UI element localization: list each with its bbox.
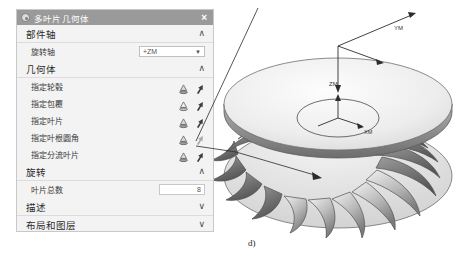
xm-axis-label: XM [364,129,373,135]
row-label: 指定轮毂 [31,81,171,92]
blade-count-input[interactable]: 8 [159,184,205,195]
row-icons [171,81,205,92]
row-specify-shroud: 指定包覆 [17,95,213,112]
close-icon[interactable]: × [199,13,209,23]
rotation-axis-label: 旋转轴 [31,46,139,57]
rotation-axis-select[interactable]: +ZM ▼ [139,46,205,57]
row-icons [171,115,205,126]
chevron-up-icon: ∧ [198,64,205,73]
arrow-cursor-icon[interactable] [194,115,205,126]
dialog-titlebar[interactable]: 多叶片几何体 × [17,10,213,25]
dialog-body: 部件轴 ∧ 旋转轴 +ZM ▼ 几何体 ∧ 指定轮毂 [17,25,213,231]
row-specify-hub: 指定轮毂 [17,78,213,95]
cone-select-icon[interactable] [178,132,189,143]
row-blade-count: 叶片总数 8 [17,181,213,198]
cone-select-icon[interactable] [178,98,189,109]
row-specify-blade-root-fillet: 指定叶根圆角 [17,129,213,146]
gear-icon [21,13,30,22]
section-label: 布局和图层 [26,218,198,232]
section-header-rotation[interactable]: 旋转 ∧ [17,163,213,181]
row-label: 指定叶片 [31,115,171,126]
chevron-up-icon: ∧ [198,167,205,176]
row-label: 指定叶根圆角 [31,132,171,143]
chevron-down-icon: ∨ [198,220,205,229]
section-label: 部件轴 [26,27,198,41]
section-label: 描述 [26,200,198,214]
chevron-up-icon: ∧ [198,29,205,38]
cone-select-icon[interactable] [178,81,189,92]
figure-label: d) [248,238,256,248]
zm-axis-label: ZM [329,81,338,87]
row-label: 指定分流叶片 [31,149,171,160]
section-header-layout-and-layers[interactable]: 布局和图层 ∨ [17,216,213,231]
impeller-blade-model: ZM YM XM [214,0,470,258]
section-header-part-axis[interactable]: 部件轴 ∧ [17,25,213,43]
ym-axis-label: YM [394,25,403,31]
section-label: 旋转 [26,165,198,179]
cone-select-icon[interactable] [178,115,189,126]
row-specify-splitter-blade: 指定分流叶片 [17,146,213,163]
section-header-geometry[interactable]: 几何体 ∧ [17,60,213,78]
row-icons [171,98,205,109]
row-label: 指定包覆 [31,98,171,109]
row-rotation-axis: 旋转轴 +ZM ▼ [17,43,213,60]
row-specify-blade: 指定叶片 [17,112,213,129]
dialog-title: 多叶片几何体 [34,12,199,24]
cone-select-icon[interactable] [178,149,189,160]
rotation-axis-value: +ZM [143,48,195,55]
chevron-down-icon: ∨ [198,202,205,211]
section-header-description[interactable]: 描述 ∨ [17,198,213,216]
chevron-down-icon: ▼ [195,49,201,55]
arrow-cursor-icon[interactable] [194,132,205,143]
row-icons [171,132,205,143]
arrow-cursor-icon[interactable] [194,81,205,92]
ym-axis-arrow [408,12,416,18]
section-label: 几何体 [26,62,198,76]
arrow-cursor-icon[interactable] [194,149,205,160]
cad-viewport[interactable]: ZM YM XM [214,0,470,258]
multi-blade-geometry-dialog: 多叶片几何体 × 部件轴 ∧ 旋转轴 +ZM ▼ 几何体 ∧ 指定轮毂 [16,9,214,232]
blade-count-label: 叶片总数 [31,184,159,195]
row-icons [171,149,205,160]
arrow-cursor-icon[interactable] [194,98,205,109]
